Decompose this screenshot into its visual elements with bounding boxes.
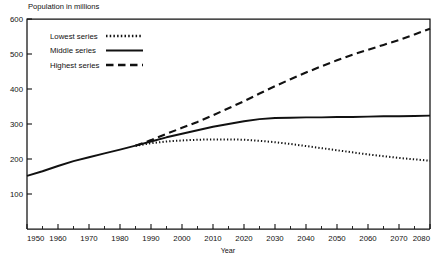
y-tick-label: 400 — [10, 85, 24, 94]
x-tick-label: 2000 — [173, 234, 191, 243]
chart-legend: Lowest seriesMiddle seriesHighest series — [50, 32, 143, 70]
x-tick-label: 2030 — [266, 234, 284, 243]
x-tick-label: 1990 — [142, 234, 160, 243]
x-tick-label: 1980 — [111, 234, 129, 243]
series-line-lowest-series — [136, 139, 431, 160]
y-axis-tick-labels: 100200300400500600 — [10, 15, 24, 199]
x-tick-label: 2080 — [413, 234, 431, 243]
x-axis-title: Year — [221, 246, 236, 255]
legend-label-middle-series: Middle series — [50, 46, 96, 55]
legend-label-highest-series: Highest series — [50, 61, 100, 70]
y-tick-label: 100 — [10, 190, 24, 199]
x-tick-label: 2050 — [328, 234, 346, 243]
series-line-highest-series — [136, 29, 431, 146]
y-tick-label: 300 — [10, 120, 24, 129]
y-tick-label: 500 — [10, 50, 24, 59]
y-tick-label: 600 — [10, 15, 24, 24]
x-axis-tick-labels: 1950196019701980199020002010202020302040… — [27, 234, 431, 243]
population-projection-chart: Population in millions 10020030040050060… — [0, 0, 438, 262]
y-axis-caption: Population in millions — [28, 2, 100, 11]
y-tick-label: 200 — [10, 155, 24, 164]
x-tick-label: 2040 — [297, 234, 315, 243]
legend-label-lowest-series: Lowest series — [50, 32, 98, 41]
x-tick-label: 2060 — [359, 234, 377, 243]
series-line-historical — [27, 146, 136, 176]
x-tick-label: 1960 — [49, 234, 67, 243]
x-tick-label: 2020 — [235, 234, 253, 243]
x-tick-label: 1950 — [27, 234, 45, 243]
chart-canvas: Population in millions 10020030040050060… — [0, 0, 438, 262]
y-axis-ticks — [27, 19, 32, 194]
x-tick-label: 2010 — [204, 234, 222, 243]
x-tick-label: 2070 — [390, 234, 408, 243]
x-tick-label: 1970 — [80, 234, 98, 243]
